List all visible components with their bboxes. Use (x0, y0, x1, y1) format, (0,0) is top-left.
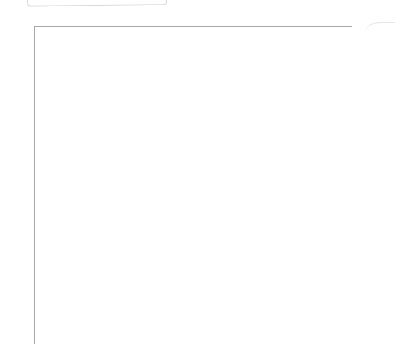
top-tab-outline (27, 0, 167, 7)
heart-chart-grid (34, 26, 352, 344)
corner-curve-decoration (365, 22, 395, 43)
